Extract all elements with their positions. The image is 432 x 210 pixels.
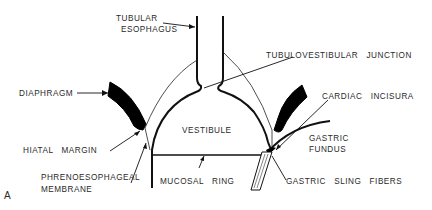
label-esophagus: ESOPHAGUS: [121, 25, 177, 35]
esophagogastric-diagram: TUBULAR ESOPHAGUS TUBULOVESTIBULAR JUNCT…: [0, 0, 432, 210]
label-diaphragm: DIAPHRAGM: [19, 89, 73, 99]
panel-label: A: [4, 190, 11, 201]
label-membrane: MEMBRANE: [41, 185, 92, 195]
left-membrane: [145, 60, 197, 150]
label-tubular: TUBULAR: [116, 14, 158, 24]
label-gastric-sling-fibers: GASTRIC SLING FIBERS: [286, 177, 402, 187]
arrowheads: [102, 24, 281, 161]
label-gastric: GASTRIC: [309, 134, 349, 144]
label-fundus: FUNDUS: [309, 145, 346, 155]
label-tubulovestibular-junction: TUBULOVESTIBULAR JUNCTION: [266, 51, 412, 61]
sling-fibers: [251, 152, 272, 190]
label-vestibule: VESTIBULE: [182, 126, 232, 136]
left-diaphragm: [108, 82, 146, 130]
label-hiatal-margin: HIATAL MARGIN: [23, 146, 97, 156]
left-wall: [152, 16, 201, 188]
label-cardiac-incisura: CARDIAC INCISURA: [322, 92, 414, 102]
label-phrenoesophageal: PHRENOESOPHAGEAL: [41, 173, 140, 183]
label-mucosal-ring: MUCOSAL RING: [160, 177, 234, 187]
